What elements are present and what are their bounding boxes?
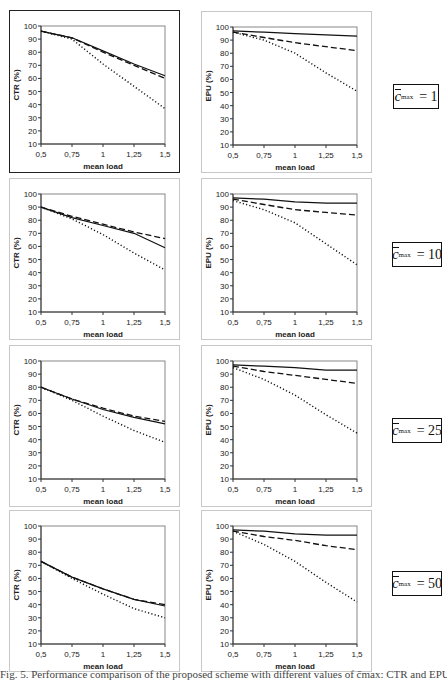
- x-tick-label: 1: [293, 318, 298, 327]
- y-tick-label: 100: [24, 522, 38, 531]
- y-tick-label: 70: [28, 61, 37, 70]
- chart-svg: 1009080706050403020100,50,7511,251,5mean…: [202, 511, 371, 671]
- y-tick-label: 40: [220, 601, 229, 610]
- y-tick-label: 40: [220, 436, 229, 445]
- x-tick-label: 0,5: [227, 151, 239, 160]
- series-dashed-line: [41, 31, 165, 78]
- y-tick-label: 20: [28, 295, 37, 304]
- y-tick-label: 40: [220, 269, 229, 278]
- y-tick-label: 50: [28, 88, 37, 97]
- y-tick-label: 40: [28, 269, 37, 278]
- y-tick-label: 10: [28, 308, 37, 317]
- y-tick-label: 50: [28, 256, 37, 265]
- y-tick-label: 40: [220, 102, 229, 111]
- y-tick-label: 40: [28, 101, 37, 110]
- y-tick-label: 50: [220, 423, 229, 432]
- cmax-value: = 50: [417, 576, 442, 592]
- x-tick-label: 1,5: [159, 318, 171, 327]
- y-tick-label: 80: [28, 548, 37, 557]
- y-tick-label: 60: [28, 409, 37, 418]
- x-tick-label: 1,25: [126, 318, 142, 327]
- y-axis-title: EPU (%): [204, 404, 213, 435]
- cmax-label-25: cmax= 25: [392, 418, 442, 443]
- cmax-value: = 1: [419, 89, 437, 105]
- y-tick-label: 100: [216, 23, 230, 32]
- y-tick-label: 90: [220, 36, 229, 45]
- x-tick-label: 0,5: [35, 150, 47, 159]
- y-axis-title: CTR (%): [12, 569, 21, 600]
- cmax-label-50: cmax= 50: [392, 571, 442, 596]
- y-tick-label: 30: [220, 614, 229, 623]
- x-tick-label: 0,5: [227, 485, 239, 494]
- chart-svg: 1009080706050403020100,50,7511,251,5mean…: [10, 346, 179, 506]
- y-tick-label: 70: [220, 62, 229, 71]
- y-tick-label: 50: [220, 89, 229, 98]
- y-tick-label: 40: [28, 601, 37, 610]
- y-tick-label: 20: [28, 462, 37, 471]
- y-tick-label: 100: [24, 190, 38, 199]
- y-tick-label: 10: [220, 308, 229, 317]
- chart-svg: 1009080706050403020100,50,7511,251,5mean…: [202, 346, 371, 506]
- y-tick-label: 100: [24, 357, 38, 366]
- x-tick-label: 1,25: [318, 650, 334, 659]
- max-subscript: max: [399, 251, 411, 259]
- y-tick-label: 80: [28, 383, 37, 392]
- y-tick-label: 70: [28, 229, 37, 238]
- x-tick-label: 0,75: [64, 150, 80, 159]
- y-tick-label: 60: [28, 242, 37, 251]
- epu-chart-cmax-10: 1009080706050403020100,50,7511,251,5mean…: [201, 178, 372, 340]
- x-tick-label: 0,75: [256, 650, 272, 659]
- x-tick-label: 1,5: [159, 150, 171, 159]
- figure-caption: Fig. 5. Performance comparison of the pr…: [0, 668, 447, 680]
- series-dashed-line: [41, 561, 165, 604]
- y-tick-label: 60: [220, 574, 229, 583]
- series-solid-line: [41, 561, 165, 606]
- ctr-chart-cmax-10: 1009080706050403020100,50,7511,251,5mean…: [9, 178, 180, 340]
- y-tick-label: 60: [220, 75, 229, 84]
- x-tick-label: 1: [101, 650, 106, 659]
- y-tick-label: 100: [216, 357, 230, 366]
- y-tick-label: 30: [28, 449, 37, 458]
- x-tick-label: 0,5: [35, 485, 47, 494]
- x-tick-label: 1,5: [159, 650, 171, 659]
- y-tick-label: 90: [28, 203, 37, 212]
- y-tick-label: 10: [28, 640, 37, 649]
- x-tick-label: 1,5: [351, 151, 363, 160]
- y-tick-label: 80: [220, 49, 229, 58]
- y-tick-label: 100: [24, 22, 38, 31]
- y-tick-label: 40: [28, 436, 37, 445]
- y-tick-label: 10: [28, 140, 37, 149]
- plot-area: [41, 194, 165, 312]
- x-tick-label: 0,75: [64, 650, 80, 659]
- max-subscript: max: [401, 93, 413, 101]
- cmax-label-1: cmax= 1: [393, 84, 439, 109]
- y-tick-label: 20: [220, 128, 229, 137]
- cmax-value: = 25: [417, 423, 442, 439]
- y-tick-label: 50: [220, 588, 229, 597]
- y-tick-label: 30: [28, 614, 37, 623]
- series-dotted-line: [233, 201, 357, 265]
- x-tick-label: 0,75: [256, 151, 272, 160]
- x-tick-label: 0,5: [35, 650, 47, 659]
- ctr-chart-cmax-1: 1009080706050403020100,50,7511,251,5mean…: [9, 10, 180, 173]
- x-tick-label: 0,5: [227, 650, 239, 659]
- ctr-chart-cmax-25: 1009080706050403020100,50,7511,251,5mean…: [9, 345, 180, 507]
- c-bar-symbol: c: [392, 422, 399, 439]
- y-tick-label: 50: [220, 256, 229, 265]
- x-tick-label: 1: [293, 650, 298, 659]
- y-tick-label: 80: [220, 548, 229, 557]
- y-tick-label: 60: [220, 409, 229, 418]
- y-tick-label: 90: [220, 203, 229, 212]
- x-tick-label: 1,25: [126, 650, 142, 659]
- y-axis-title: CTR (%): [12, 69, 21, 100]
- y-tick-label: 90: [28, 370, 37, 379]
- y-tick-label: 20: [28, 127, 37, 136]
- plot-area: [41, 26, 165, 144]
- y-tick-label: 90: [220, 535, 229, 544]
- y-tick-label: 30: [220, 449, 229, 458]
- y-tick-label: 70: [220, 561, 229, 570]
- c-bar-symbol: c: [394, 88, 401, 105]
- x-tick-label: 1: [293, 485, 298, 494]
- plot-area: [41, 526, 165, 644]
- epu-chart-cmax-50: 1009080706050403020100,50,7511,251,5mean…: [201, 510, 372, 672]
